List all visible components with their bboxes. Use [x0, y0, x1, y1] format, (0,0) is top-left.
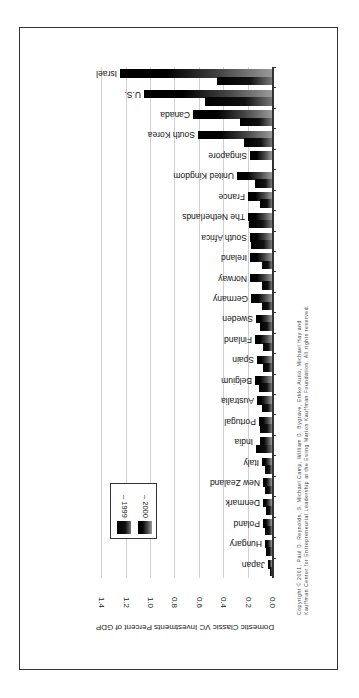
category-tick: [272, 271, 276, 272]
category-label: Italy: [244, 458, 260, 468]
bar-1999: [265, 526, 272, 535]
category-label: U.S.: [124, 90, 141, 100]
bar-1999: [265, 465, 272, 474]
category-label: Singapore: [208, 151, 247, 161]
category-tick: [272, 333, 276, 334]
category-tick: [272, 353, 276, 354]
bar-1999: [244, 138, 272, 147]
bar-1999: [217, 77, 272, 86]
bar-1999: [263, 363, 272, 372]
category-label: Spain: [233, 355, 255, 365]
legend: – 1999 – 2000: [110, 483, 157, 539]
category-label: India: [235, 437, 253, 447]
category-label: Germany: [213, 294, 248, 304]
category-tick: [272, 251, 276, 252]
category-tick: [272, 87, 276, 88]
bar-1999: [256, 445, 272, 454]
category-label: South Africa: [201, 233, 247, 243]
category-tick: [272, 312, 276, 313]
bar-1999: [270, 567, 272, 576]
value-axis-title: Domestic Classic VC Investments Percent …: [75, 623, 295, 632]
category-label: Japan: [242, 560, 265, 570]
category-tick: [272, 210, 276, 211]
category-label: Finland: [224, 335, 252, 345]
bar-1999: [260, 424, 272, 433]
category-label: Sweden: [222, 314, 253, 324]
category-label: Norway: [218, 274, 247, 284]
chart-frame: [19, 27, 338, 670]
tick-label: 1.0: [146, 595, 155, 611]
category-label: Denmark: [226, 498, 260, 508]
legend-label: – 1999: [120, 490, 129, 524]
gridline: [199, 67, 200, 578]
category-label: Poland: [234, 519, 260, 529]
bar-1999: [249, 220, 272, 229]
category-tick: [272, 190, 276, 191]
tick-label: 0.0: [268, 595, 277, 611]
bar-1999: [266, 506, 272, 515]
bar-1999: [265, 486, 272, 495]
bar-1999: [259, 383, 272, 392]
legend-item-2000: – 2000: [136, 488, 154, 536]
bar-1999: [262, 404, 272, 413]
bar-1999: [251, 240, 272, 249]
bar-1999: [262, 281, 272, 290]
tick-label: 0.2: [243, 595, 252, 611]
value-axis-zero-line: [272, 67, 274, 578]
category-tick: [272, 67, 276, 68]
category-label: Canada: [160, 110, 190, 120]
tick-label: 1.2: [121, 595, 130, 611]
gridline: [101, 67, 102, 578]
category-tick: [272, 517, 276, 518]
bar-2000: [250, 151, 272, 160]
category-label: Hungary: [230, 539, 262, 549]
category-tick: [272, 394, 276, 395]
category-label: Portugal: [224, 417, 256, 427]
category-tick: [272, 374, 276, 375]
tick-label: 0.4: [219, 595, 228, 611]
bar-1999: [263, 343, 272, 352]
category-tick: [272, 231, 276, 232]
bar-1999: [240, 118, 272, 127]
bar-1999: [260, 322, 272, 331]
bar-1999: [266, 547, 272, 556]
category-tick: [272, 455, 276, 456]
category-label: Belgium: [221, 376, 252, 386]
tick-label: 0.8: [170, 595, 179, 611]
category-label: Ireland: [221, 253, 247, 263]
copyright-notice: Copyright © 2001, Paul D. Reynolds, S. M…: [296, 95, 304, 615]
bar-1999: [262, 261, 272, 270]
category-tick: [272, 435, 276, 436]
category-label: The Netherlands: [182, 212, 245, 222]
category-label: United Kingdom: [173, 171, 233, 181]
category-tick: [272, 558, 276, 559]
legend-item-1999: – 1999: [115, 488, 133, 536]
gridline: [174, 67, 175, 578]
category-tick: [272, 128, 276, 129]
category-tick: [272, 496, 276, 497]
legend-swatch-1999: [117, 521, 131, 534]
tick-label: 0.6: [194, 595, 203, 611]
category-label: Israel: [96, 69, 117, 79]
category-label: South Korea: [147, 130, 194, 140]
category-tick: [272, 476, 276, 477]
bar-1999: [262, 302, 272, 311]
legend-label: – 2000: [141, 490, 150, 524]
category-tick: [272, 169, 276, 170]
category-tick: [272, 537, 276, 538]
bar-1999: [255, 179, 272, 188]
category-tick: [272, 292, 276, 293]
category-tick: [272, 149, 276, 150]
legend-swatch-2000: [138, 521, 152, 534]
category-tick: [272, 108, 276, 109]
category-label: New Zealand: [210, 478, 260, 488]
tick-label: 1.4: [97, 595, 106, 611]
category-label: France: [218, 192, 244, 202]
bar-1999: [205, 97, 272, 106]
category-tick: [272, 414, 276, 415]
copyright-line-1: Copyright © 2001, Paul D. Reynolds, S. M…: [296, 320, 302, 615]
copyright-line-2: Kauffman Center for Entrepreneurial Lead…: [303, 305, 309, 615]
category-label: Australia: [221, 396, 254, 406]
bar-1999: [260, 199, 272, 208]
